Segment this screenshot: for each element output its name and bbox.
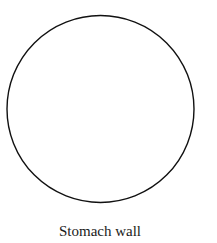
diagram-canvas xyxy=(0,0,217,243)
stomach-wall-circle xyxy=(7,16,194,203)
stomach-wall-label: Stomach wall xyxy=(0,222,200,240)
